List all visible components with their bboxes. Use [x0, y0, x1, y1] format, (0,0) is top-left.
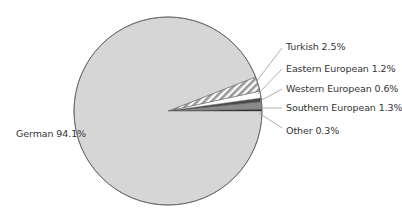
- slice-label-german: German 94.1%: [16, 128, 86, 140]
- leader-line: [259, 113, 282, 128]
- slice-label-western-european: Western European 0.6%: [286, 83, 398, 95]
- leader-line: [260, 89, 282, 101]
- slice-label-southern-european: Southern European 1.3%: [286, 102, 402, 114]
- slice-label-turkish: Turkish 2.5%: [286, 41, 345, 53]
- slice-label-eastern-european: Eastern European 1.2%: [286, 63, 395, 75]
- leader-line: [258, 69, 282, 94]
- pie-slices: [74, 17, 262, 205]
- pie-slice-german: [74, 17, 262, 205]
- slice-label-other: Other 0.3%: [286, 125, 339, 137]
- leader-line: [256, 48, 282, 82]
